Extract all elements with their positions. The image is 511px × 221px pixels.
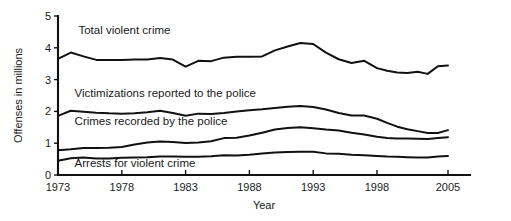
y-axis-tick-labels: 012345 [45, 10, 51, 181]
series-line-0 [58, 43, 448, 74]
x-tick-label: 1998 [365, 181, 389, 193]
series-label-1: Victimizations reported to the police [75, 87, 256, 99]
chart-plot-area: 012345 1973197819831988199319982005 Tota… [0, 0, 511, 221]
x-tick-label: 1978 [110, 181, 134, 193]
x-tick-label: 1983 [173, 181, 197, 193]
series-label-3: Arrests for violent crime [75, 157, 196, 169]
series-label-2: Crimes recorded by the police [75, 115, 228, 127]
y-tick-label: 5 [45, 10, 51, 22]
x-tick-label: 1988 [237, 181, 261, 193]
y-tick-label: 3 [45, 74, 51, 86]
x-tick-label: 1993 [301, 181, 325, 193]
y-tick-label: 2 [45, 105, 51, 117]
y-tick-label: 0 [45, 169, 51, 181]
x-axis-tick-labels: 1973197819831988199319982005 [46, 181, 460, 193]
x-axis-title: Year [253, 199, 276, 211]
series-line-2 [58, 127, 448, 150]
chart-series-lines [58, 43, 448, 161]
x-tick-label: 2005 [436, 181, 460, 193]
line-chart: 012345 1973197819831988199319982005 Tota… [0, 0, 511, 221]
y-tick-label: 1 [45, 137, 51, 149]
y-tick-label: 4 [45, 42, 51, 54]
series-label-0: Total violent crime [78, 24, 170, 36]
x-tick-label: 1973 [46, 181, 70, 193]
y-axis-title: Offenses in millions [12, 47, 24, 143]
